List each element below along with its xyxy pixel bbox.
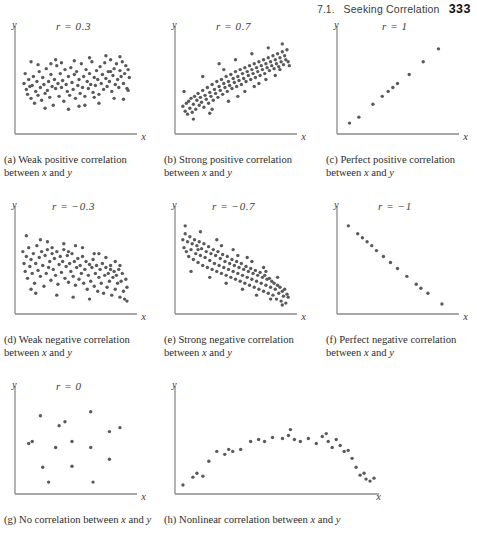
data-point <box>91 258 94 261</box>
data-point <box>187 255 190 258</box>
data-point <box>47 80 50 83</box>
data-point <box>110 293 113 296</box>
data-point <box>108 80 111 83</box>
data-point <box>213 88 216 91</box>
data-point <box>23 72 26 75</box>
data-point <box>34 291 37 294</box>
data-point <box>189 248 192 251</box>
scatter-svg-f <box>326 202 474 330</box>
data-point <box>276 276 279 279</box>
data-points-d <box>21 234 129 303</box>
data-point <box>250 278 253 281</box>
data-point <box>196 248 199 251</box>
data-point <box>88 72 91 75</box>
data-point <box>83 104 86 107</box>
data-point <box>391 86 394 89</box>
data-point <box>241 72 244 75</box>
data-point <box>275 62 278 65</box>
caption-a-line1: (a) Weak positive correlation <box>4 154 127 165</box>
data-point <box>81 86 84 89</box>
data-point <box>126 89 129 92</box>
data-point <box>272 67 275 70</box>
data-point <box>348 121 351 124</box>
data-point <box>268 277 271 280</box>
data-point <box>242 268 245 271</box>
data-point <box>321 435 324 438</box>
figure-panel-g: r = 0 y x (g) No correlation between x a… <box>4 382 164 526</box>
data-point <box>108 280 111 283</box>
data-point <box>278 56 281 59</box>
data-point <box>223 453 226 456</box>
data-point <box>122 82 125 85</box>
data-point <box>221 253 224 256</box>
data-point <box>125 299 128 302</box>
y-axis-label-c: y <box>334 19 339 30</box>
data-point <box>115 62 118 65</box>
data-point <box>287 434 290 437</box>
data-point <box>73 59 76 62</box>
data-point <box>227 268 230 271</box>
data-point <box>188 235 191 238</box>
data-point <box>243 282 246 285</box>
data-point <box>200 247 203 250</box>
data-point <box>45 272 48 275</box>
data-point <box>41 76 44 79</box>
data-point <box>86 80 89 83</box>
data-point <box>285 292 288 295</box>
data-point <box>54 58 57 61</box>
data-point <box>104 256 107 259</box>
data-point <box>124 64 127 67</box>
data-point <box>186 112 189 115</box>
x-axis-label-e: x <box>301 311 306 322</box>
data-point <box>223 86 226 89</box>
data-point <box>440 302 443 305</box>
data-point <box>46 89 49 92</box>
y-axis-label-e: y <box>172 199 177 210</box>
data-point <box>212 248 215 251</box>
data-point <box>342 450 345 453</box>
data-point <box>209 252 212 255</box>
data-point <box>112 97 115 100</box>
data-point <box>38 256 41 259</box>
data-point <box>32 75 35 78</box>
section-number: 7.1. <box>317 4 334 15</box>
data-point <box>31 440 34 443</box>
data-point <box>128 76 131 79</box>
data-point <box>86 288 89 291</box>
caption-g-line2: between x and y <box>83 514 151 525</box>
data-point <box>48 96 51 99</box>
data-point <box>87 274 90 277</box>
scatter-svg-c <box>326 22 474 150</box>
figure-panel-c: r = 1 y x (c) Perfect positive correlati… <box>326 22 477 179</box>
data-point <box>119 75 122 78</box>
data-point <box>257 82 260 85</box>
data-point <box>271 436 274 439</box>
data-point <box>49 279 52 282</box>
data-point <box>41 264 44 267</box>
data-point <box>381 95 384 98</box>
data-point <box>75 70 78 73</box>
data-point <box>258 271 261 274</box>
data-point <box>208 259 211 262</box>
data-point <box>307 437 310 440</box>
scatter-svg-e <box>164 202 312 330</box>
data-point <box>338 444 341 447</box>
scatter-plot-a: r = 0.3 y x <box>4 22 152 150</box>
data-point <box>71 88 74 91</box>
scatter-plot-g: r = 0 y x <box>4 382 152 510</box>
data-point <box>201 75 204 78</box>
data-point <box>331 446 334 449</box>
data-point <box>33 102 36 105</box>
data-point <box>286 60 289 63</box>
data-point <box>63 68 66 71</box>
caption-g-line1: (g) No correlation <box>4 514 80 525</box>
data-point <box>243 90 246 93</box>
data-point <box>38 70 41 73</box>
data-point <box>267 46 270 49</box>
data-point <box>78 264 81 267</box>
data-point <box>70 440 73 443</box>
data-point <box>192 258 195 261</box>
data-point <box>289 428 292 431</box>
data-point <box>55 293 58 296</box>
data-point <box>357 115 360 118</box>
